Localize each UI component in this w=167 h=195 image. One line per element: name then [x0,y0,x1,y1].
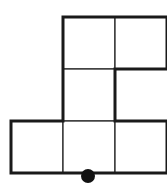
grid-cell [63,17,115,69]
grid-cell [63,121,115,173]
dot-marker [81,169,95,183]
grid-cell [115,121,167,173]
grid-cell [63,69,115,121]
grid-cell [115,17,167,69]
grid-cell [11,121,63,173]
grid-cells [11,17,167,173]
polyomino-diagram [0,0,167,195]
